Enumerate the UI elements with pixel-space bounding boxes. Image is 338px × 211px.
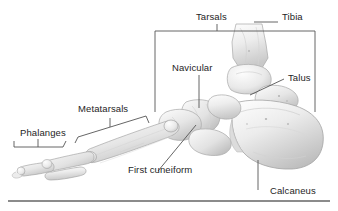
label-tibia: Tibia	[282, 11, 303, 22]
foot-anatomy-figure: Tarsals Tibia Navicular Talus Metatarsal…	[0, 0, 338, 211]
label-metatarsals: Metatarsals	[78, 103, 128, 114]
bone-group-phalanges	[12, 152, 94, 180]
label-talus: Talus	[288, 72, 311, 83]
label-tarsals: Tarsals	[196, 11, 227, 22]
label-navicular: Navicular	[172, 62, 213, 73]
figure-bottom-rule	[8, 200, 330, 202]
label-phalanges: Phalanges	[20, 127, 66, 138]
label-first-cuneiform: First cuneiform	[128, 164, 192, 175]
phalanges-bracket-end-right	[63, 141, 66, 147]
bone-group-metatarsals	[84, 120, 180, 163]
bone-group-calcaneus	[230, 100, 324, 169]
metatarsals-bracket-end-left	[75, 137, 78, 143]
metatarsals-bracket-end-right	[146, 116, 149, 123]
label-calcaneus: Calcaneus	[270, 185, 316, 196]
foot-bones-illustration	[0, 0, 338, 211]
